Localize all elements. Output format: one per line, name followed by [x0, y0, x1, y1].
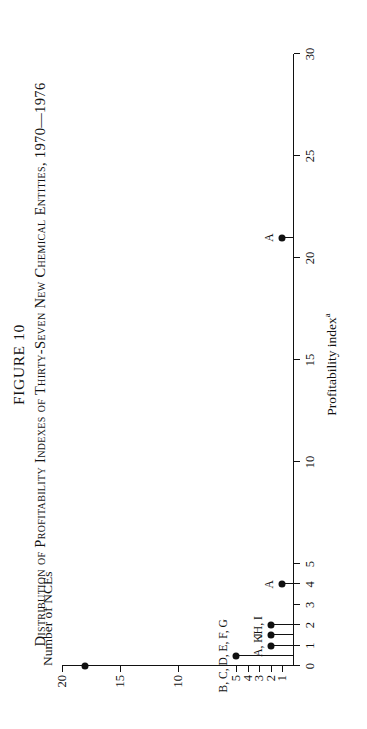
data-point-label: A, K [251, 634, 263, 656]
x-axis-title-footnote-marker: a [322, 313, 332, 317]
x-tick-label: 4 [304, 581, 317, 587]
x-tick [294, 563, 300, 564]
x-tick [294, 53, 300, 54]
y-tick-label: 2 [265, 675, 278, 681]
rotated-figure-container: FIGURE 10 Distribution of Profitability … [0, 0, 367, 729]
x-tick-label: 5 [304, 561, 317, 567]
x-tick-label: 25 [304, 150, 317, 163]
x-tick-label: 30 [304, 48, 317, 61]
x-axis-title-text: Profitability index [324, 317, 339, 416]
y-tick [259, 666, 260, 672]
data-point[interactable] [267, 632, 274, 639]
x-tick [294, 645, 300, 646]
y-tick-label: 15 [114, 675, 127, 688]
data-point[interactable] [82, 663, 89, 670]
x-tick-label: 3 [304, 602, 317, 608]
data-point[interactable] [279, 234, 286, 241]
axes [62, 54, 294, 666]
y-tick-label: 1 [276, 675, 289, 681]
x-tick [294, 359, 300, 360]
x-tick-label: 15 [304, 354, 317, 367]
y-axis-title: Number of NCEs [40, 572, 56, 667]
stem-line [236, 655, 294, 656]
figure: FIGURE 10 Distribution of Profitability … [0, 0, 367, 729]
y-tick [236, 666, 237, 672]
x-tick-label: 10 [304, 456, 317, 469]
y-tick-label: 4 [241, 675, 254, 681]
data-point[interactable] [279, 581, 286, 588]
data-point[interactable] [267, 622, 274, 629]
x-tick-label: 0 [304, 663, 317, 669]
data-point[interactable] [267, 642, 274, 649]
y-tick [282, 666, 283, 672]
data-point[interactable] [233, 652, 240, 659]
x-axis-title: Profitability indexa [322, 0, 340, 729]
y-tick-label: 10 [172, 675, 185, 688]
data-point-label: A [263, 233, 275, 241]
plot-area: 012345101520253012345101520B, C, D, E, F… [62, 54, 294, 666]
x-tick [294, 624, 300, 625]
y-tick-label: 20 [56, 675, 69, 688]
data-point-label: A [263, 580, 275, 588]
data-point-label: B, C, D, E, F, G [217, 619, 229, 692]
y-tick-label: 3 [253, 675, 266, 681]
x-tick [294, 604, 300, 605]
x-tick-label: 20 [304, 252, 317, 265]
y-tick [271, 666, 272, 672]
y-tick [62, 666, 63, 672]
y-tick-label: 5 [230, 675, 243, 681]
y-tick [178, 666, 179, 672]
x-tick [294, 665, 300, 666]
x-tick [294, 257, 300, 258]
y-tick [120, 666, 121, 672]
x-tick [294, 583, 300, 584]
figure-number: FIGURE 10 [10, 0, 28, 729]
data-point-label: H, I [251, 616, 263, 634]
x-tick [294, 155, 300, 156]
x-tick [294, 461, 300, 462]
stem-line [85, 665, 294, 666]
x-tick-label: 2 [304, 622, 317, 628]
y-tick [248, 666, 249, 672]
figure-page: FIGURE 10 Distribution of Profitability … [0, 0, 367, 729]
x-tick-label: 1 [304, 642, 317, 648]
